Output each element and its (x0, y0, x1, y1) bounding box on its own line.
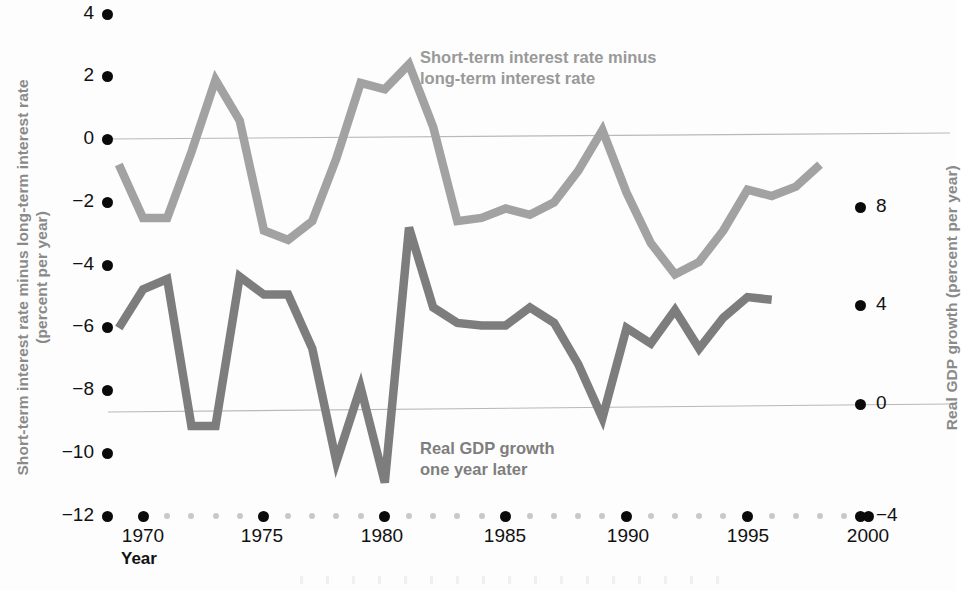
y-axis-right-tick-label: 8 (876, 195, 936, 217)
y-axis-left-tick-dot (102, 134, 113, 145)
gridline-zero-left (108, 133, 950, 139)
y-axis-left-tick-label: −2 (30, 190, 94, 212)
x-axis-tick-dot (742, 511, 753, 522)
x-axis-tick-dot (358, 513, 364, 519)
x-axis-tick-dot (213, 513, 219, 519)
y-axis-right-tick-label: 0 (876, 392, 936, 414)
annotation-gdp-growth-line2: one year later (420, 459, 554, 480)
x-axis-title: Year (121, 549, 157, 569)
y-axis-left-tick-label: 0 (30, 127, 94, 149)
x-axis-tick-dot (237, 513, 243, 519)
y-axis-left-tick-label: 2 (30, 64, 94, 86)
annotation-interest-spread-line2: long-term interest rate (420, 68, 657, 89)
x-axis-tick-label: 1985 (465, 525, 545, 547)
x-axis-tick-dot (379, 511, 390, 522)
y-axis-right-tick-label: 4 (876, 293, 936, 315)
x-axis-tick-label: 2000 (828, 525, 908, 547)
y-axis-right-tick-label: −4 (876, 504, 936, 526)
x-axis-tick-dot (551, 513, 557, 519)
x-axis-tick-dot (817, 513, 823, 519)
y-axis-left-tick-label: −10 (30, 441, 94, 463)
y-axis-left-tick-dot (102, 197, 113, 208)
x-axis-tick-label: 1975 (222, 525, 302, 547)
x-axis-tick-dot (769, 513, 775, 519)
y-axis-left-tick-label: 4 (30, 2, 94, 24)
x-axis-tick-dot (621, 511, 632, 522)
y-axis-left-tick-dot (102, 511, 113, 522)
x-axis-tick-dot (648, 513, 654, 519)
y-axis-left-tick-dot (102, 260, 113, 271)
y-axis-right-tick-dot (855, 300, 866, 311)
annotation-interest-spread: Short-term interest rate minus long-term… (420, 47, 657, 89)
x-axis-tick-label: 1970 (103, 525, 183, 547)
y-axis-left-tick-dot (102, 385, 113, 396)
x-axis-tick-dot (138, 511, 149, 522)
x-axis-tick-label: 1990 (588, 525, 668, 547)
gridline-zero-right (108, 404, 950, 412)
y-axis-left-tick-label: −6 (30, 315, 94, 337)
annotation-gdp-growth-line1: Real GDP growth (420, 438, 554, 459)
x-axis-tick-dot (406, 513, 412, 519)
series-line-interest-spread (119, 64, 820, 274)
annotation-interest-spread-line1: Short-term interest rate minus (420, 47, 657, 68)
annotation-gdp-growth: Real GDP growth one year later (420, 438, 554, 480)
x-axis-tick-dot (500, 511, 511, 522)
x-axis-tick-dot (672, 513, 678, 519)
y-axis-right-tick-dot (855, 399, 866, 410)
y-axis-right-tick-dot (855, 202, 866, 213)
x-axis-tick-label: 1995 (708, 525, 788, 547)
x-axis-tick-dot (479, 513, 485, 519)
y-axis-left-tick-dot (102, 322, 113, 333)
x-axis-tick-dot (863, 511, 874, 522)
y-axis-left-tick-dot (102, 448, 113, 459)
y-axis-left-tick-label: −4 (30, 253, 94, 275)
x-axis-tick-label: 1980 (342, 525, 422, 547)
x-axis-tick-dot (793, 513, 799, 519)
y-axis-left-tick-dot (102, 71, 113, 82)
scan-artifact (300, 576, 730, 584)
y-axis-left-tick-label: −12 (30, 504, 94, 526)
x-axis-tick-dot (258, 511, 269, 522)
y-axis-left-tick-dot (102, 9, 113, 20)
x-axis-tick-dot (527, 513, 533, 519)
y-axis-left-tick-label: −8 (30, 378, 94, 400)
